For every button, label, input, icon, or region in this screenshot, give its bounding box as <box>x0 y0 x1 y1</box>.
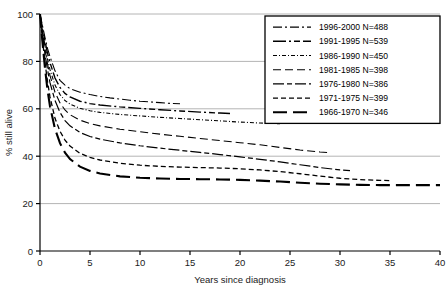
chart-canvas: 0510152025303540 020406080100 Years sinc… <box>0 0 447 288</box>
chart-legend: 1996-2000 N=4881991-1995 N=5391986-1990 … <box>265 16 440 123</box>
legend-label-1971-1975: 1971-1975 N=399 <box>319 93 388 103</box>
x-tick-label-5: 5 <box>87 257 92 268</box>
x-tick-label-40: 40 <box>435 257 446 268</box>
y-tick-label-20: 20 <box>22 198 33 209</box>
legend-label-1966-1970: 1966-1970 N=346 <box>319 107 388 117</box>
y-tick-label-80: 80 <box>22 56 33 67</box>
legend-label-1996-2000: 1996-2000 N=488 <box>319 22 388 32</box>
y-tick-label-60: 60 <box>22 103 33 114</box>
y-tick-label-0: 0 <box>28 246 33 257</box>
legend-label-1991-1995: 1991-1995 N=539 <box>319 36 388 46</box>
legend-label-1976-1980: 1976-1980 N=386 <box>319 79 388 89</box>
y-tick-label-100: 100 <box>17 9 33 20</box>
x-tick-label-0: 0 <box>37 257 42 268</box>
legend-label-1981-1985: 1981-1985 N=398 <box>319 65 388 75</box>
x-tick-label-20: 20 <box>235 257 246 268</box>
y-tick-label-40: 40 <box>22 151 33 162</box>
legend-label-1986-1990: 1986-1990 N=450 <box>319 51 388 61</box>
x-tick-label-35: 35 <box>385 257 396 268</box>
x-tick-label-15: 15 <box>185 257 196 268</box>
survival-chart: 0510152025303540 020406080100 Years sinc… <box>0 0 447 288</box>
x-tick-label-25: 25 <box>285 257 296 268</box>
x-axis-title: Years since diagnosis <box>194 274 286 285</box>
y-axis-title: % still alive <box>3 109 14 156</box>
x-tick-label-30: 30 <box>335 257 346 268</box>
x-tick-label-10: 10 <box>135 257 146 268</box>
